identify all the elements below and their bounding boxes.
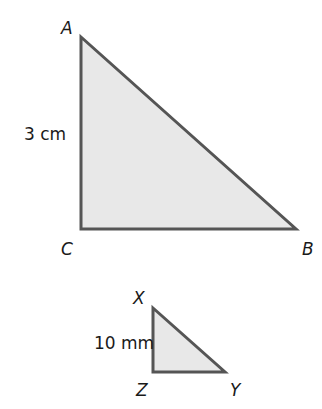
vertex-label-b: B	[302, 241, 314, 258]
vertex-label-z: Z	[136, 382, 148, 399]
vertex-label-y: Y	[230, 382, 240, 399]
diagram-canvas	[0, 0, 322, 409]
side-label-ac: 3 cm	[24, 126, 66, 143]
vertex-label-c: C	[61, 241, 73, 258]
vertex-label-a: A	[61, 20, 73, 37]
vertex-label-x: X	[133, 290, 145, 307]
triangle-xyz	[153, 308, 225, 372]
triangle-abc	[81, 37, 296, 229]
side-label-xz: 10 mm	[94, 335, 154, 352]
